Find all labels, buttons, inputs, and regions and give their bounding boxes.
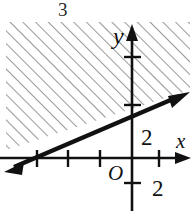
inequality-graph-figure: y x O 2 2 3 [0,0,195,211]
x-intercept-tick-label: 2 [152,176,164,201]
y-axis-label: y [111,23,124,49]
origin-label: O [108,161,123,185]
shaded-solution-region [0,0,195,211]
stray-top-fragment: 3 [58,0,68,20]
boundary-line-left-arrowhead [4,162,24,175]
y-intercept-tick-label: 2 [141,125,153,150]
graph-canvas: y x O 2 2 3 [0,0,195,211]
hatch-fill [0,0,195,211]
x-axis-label: x [175,129,186,153]
x-axis-arrowhead [175,152,191,164]
